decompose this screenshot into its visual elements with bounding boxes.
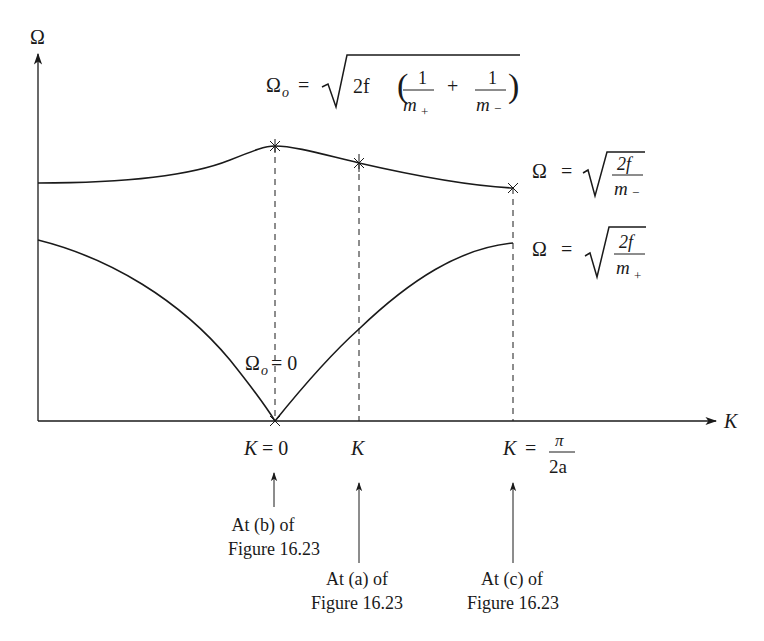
svg-text:1: 1 xyxy=(418,68,427,88)
omega0-zero-label: Ω o = 0 xyxy=(245,352,297,378)
svg-text:= 0: = 0 xyxy=(262,437,288,459)
svg-text:At (c) of: At (c) of xyxy=(481,569,543,590)
svg-text:Figure 16.23: Figure 16.23 xyxy=(228,539,320,559)
svg-text:+: + xyxy=(421,104,428,119)
svg-text:2a: 2a xyxy=(549,456,568,477)
svg-text:K: K xyxy=(502,437,518,459)
svg-text:+: + xyxy=(634,268,641,283)
svg-text:+: + xyxy=(447,75,458,97)
svg-text:Ω: Ω xyxy=(245,352,260,374)
svg-text:m: m xyxy=(403,94,417,115)
svg-text:Ω: Ω xyxy=(266,74,281,96)
omega-minus-formula: Ω = 2f m − xyxy=(532,152,645,200)
x-axis-label: K xyxy=(723,410,739,432)
svg-text:=: = xyxy=(561,160,572,182)
omega0-formula: Ω o = 2f ( 1 m + + 1 m − ) xyxy=(266,55,520,119)
svg-text:o: o xyxy=(282,85,289,100)
svg-text:m: m xyxy=(476,94,490,115)
svg-text:= 0: = 0 xyxy=(271,352,297,374)
callout-label-b: At (b) of Figure 16.23 xyxy=(228,515,320,559)
callout-label-a: At (a) of Figure 16.23 xyxy=(311,569,403,613)
svg-text:−: − xyxy=(494,101,501,116)
svg-text:2f: 2f xyxy=(353,75,370,97)
callout-label-c: At (c) of Figure 16.23 xyxy=(467,569,559,613)
svg-text:−: − xyxy=(632,185,639,200)
svg-text:At (b) of: At (b) of xyxy=(232,515,295,536)
svg-text:Ω: Ω xyxy=(532,238,547,260)
tick-label-kmax: K = π 2a xyxy=(502,431,575,477)
svg-text:Ω: Ω xyxy=(532,160,547,182)
y-axis-label: Ω xyxy=(30,26,45,48)
svg-text:m: m xyxy=(616,257,630,278)
svg-text:m: m xyxy=(614,178,628,199)
svg-text:=: = xyxy=(561,238,572,260)
svg-text:=: = xyxy=(298,74,309,96)
svg-text:π: π xyxy=(555,431,564,450)
svg-text:1: 1 xyxy=(488,68,497,88)
svg-text:At (a) of: At (a) of xyxy=(326,569,388,590)
svg-text:o: o xyxy=(261,363,268,378)
svg-text:): ) xyxy=(508,67,519,105)
omega-plus-formula: Ω = 2f m + xyxy=(532,227,646,283)
svg-text:2f: 2f xyxy=(617,154,634,174)
svg-text:Figure 16.23: Figure 16.23 xyxy=(311,593,403,613)
svg-text:K: K xyxy=(243,437,259,459)
svg-text:Figure 16.23: Figure 16.23 xyxy=(467,593,559,613)
dispersion-diagram: Ω K Ω o = 2f ( 1 m + + 1 m − ) Ω = xyxy=(0,0,764,641)
svg-text:=: = xyxy=(525,437,536,459)
tick-label-k: K xyxy=(350,437,366,459)
svg-text:2f: 2f xyxy=(619,232,636,252)
tick-label-k0: K = 0 xyxy=(243,437,288,459)
